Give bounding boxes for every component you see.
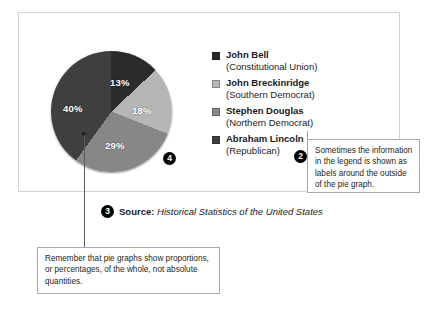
legend-name-douglas: Stephen Douglas xyxy=(226,105,313,117)
pie-slice-label-douglas: 29% xyxy=(105,140,125,151)
legend-party-lincoln: (Republican) xyxy=(226,145,304,157)
source-line: Source: Historical Statistics of the Uni… xyxy=(119,206,323,217)
legend-name-breckinridge: John Breckinridge xyxy=(226,77,315,89)
legend-name-bell: John Bell xyxy=(226,49,317,61)
pie-slice-label-lincoln: 40% xyxy=(63,103,83,114)
step-marker-2: 2 xyxy=(294,150,307,163)
legend-item-breckinridge: John Breckinridge (Southern Democrat) xyxy=(212,77,337,100)
legend-swatch-icon-bell xyxy=(212,52,220,60)
source-title: Historical Statistics of the United Stat… xyxy=(157,206,323,217)
legend-item-bell: John Bell (Constitutional Union) xyxy=(212,49,337,72)
legend-text-breckinridge: John Breckinridge (Southern Democrat) xyxy=(226,77,315,100)
source-label: Source: xyxy=(119,206,154,217)
pie-graph: 13% 18% 29% 40% xyxy=(51,51,172,172)
legend-swatch-icon-douglas xyxy=(212,108,220,116)
step-marker-4: 4 xyxy=(163,152,176,165)
legend-text-douglas: Stephen Douglas (Northern Democrat) xyxy=(226,105,313,128)
legend-swatch-icon-breckinridge xyxy=(212,80,220,88)
legend-item-douglas: Stephen Douglas (Northern Democrat) xyxy=(212,105,337,128)
pie-slice-label-bell: 13% xyxy=(110,77,130,88)
callout-legend-note: Sometimes the information in the legend … xyxy=(307,139,420,193)
callout-leader-proportions xyxy=(84,134,85,247)
legend-text-lincoln: Abraham Lincoln (Republican) xyxy=(226,133,304,156)
legend-party-bell: (Constitutional Union) xyxy=(226,61,317,73)
callout-proportions-note: Remember that pie graphs show proportion… xyxy=(37,247,220,294)
legend-party-breckinridge: (Southern Democrat) xyxy=(226,89,315,101)
legend-name-lincoln: Abraham Lincoln xyxy=(226,133,304,145)
legend-party-douglas: (Northern Democrat) xyxy=(226,117,313,129)
pie-slice-label-breckinridge: 18% xyxy=(132,105,152,116)
figure-stage: 13% 18% 29% 40% John Bell (Constitutiona… xyxy=(0,0,426,309)
legend-text-bell: John Bell (Constitutional Union) xyxy=(226,49,317,72)
legend-swatch-icon-lincoln xyxy=(212,136,220,144)
step-marker-3: 3 xyxy=(101,205,114,218)
